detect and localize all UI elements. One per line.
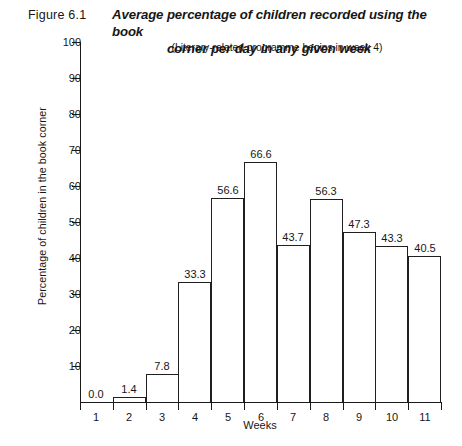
bar (277, 245, 310, 402)
x-axis-tick (375, 402, 376, 410)
x-axis-tick (310, 402, 311, 410)
y-axis-tick-text: 70 (51, 145, 81, 156)
y-axis-tick-text: 100 (51, 37, 81, 48)
bar-value-label: 40.5 (402, 242, 448, 254)
x-axis-tick (343, 402, 344, 410)
bar (244, 162, 277, 402)
y-axis-tick-text: 80 (51, 109, 81, 120)
y-axis-tick-label: 30 (34, 289, 81, 300)
bar (408, 256, 441, 402)
bar (211, 198, 244, 402)
x-axis-category-label: 11 (405, 411, 445, 423)
x-axis-tick (178, 402, 179, 410)
y-axis-tick-text: 20 (51, 325, 81, 336)
bar-value-label: 66.6 (238, 148, 284, 160)
x-axis-tick (146, 402, 147, 410)
y-axis-tick-label: 90 (34, 73, 81, 84)
y-axis-tick-text: 50 (51, 217, 81, 228)
y-axis-tick-label: 10 (34, 361, 81, 372)
y-axis-tick-text: 40 (51, 253, 81, 264)
x-axis-tick (441, 402, 442, 410)
bar (146, 374, 179, 402)
bar (343, 232, 376, 402)
y-axis-tick-text: 10 (51, 361, 81, 372)
bar (113, 397, 146, 402)
y-axis-tick-text: 90 (51, 73, 81, 84)
figure-container: Figure 6.1 Average percentage of childre… (0, 0, 462, 446)
y-axis-tick-label: 70 (34, 145, 81, 156)
y-axis-tick-text: 60 (51, 181, 81, 192)
x-axis-line (80, 402, 441, 403)
y-axis-tick-label: 60 (34, 181, 81, 192)
x-axis-tick (408, 402, 409, 410)
x-axis-tick (113, 402, 114, 410)
y-axis-tick-label: 40 (34, 253, 81, 264)
bar-value-label: 56.3 (303, 185, 349, 197)
y-axis-tick-label: 20 (34, 325, 81, 336)
x-axis-tick (244, 402, 245, 410)
y-axis-tick-label: 50 (34, 217, 81, 228)
y-axis-tick-label: 100 (34, 37, 81, 48)
x-axis-tick (80, 402, 81, 410)
x-axis-tick (211, 402, 212, 410)
y-axis-tick-label: 80 (34, 109, 81, 120)
bar (375, 246, 408, 402)
bar-value-label: 47.3 (336, 218, 382, 230)
bar (178, 282, 211, 402)
bar-chart-plot: Percentage of children in the book corne… (0, 0, 462, 446)
x-axis-tick (277, 402, 278, 410)
y-axis-tick-text: 30 (51, 289, 81, 300)
